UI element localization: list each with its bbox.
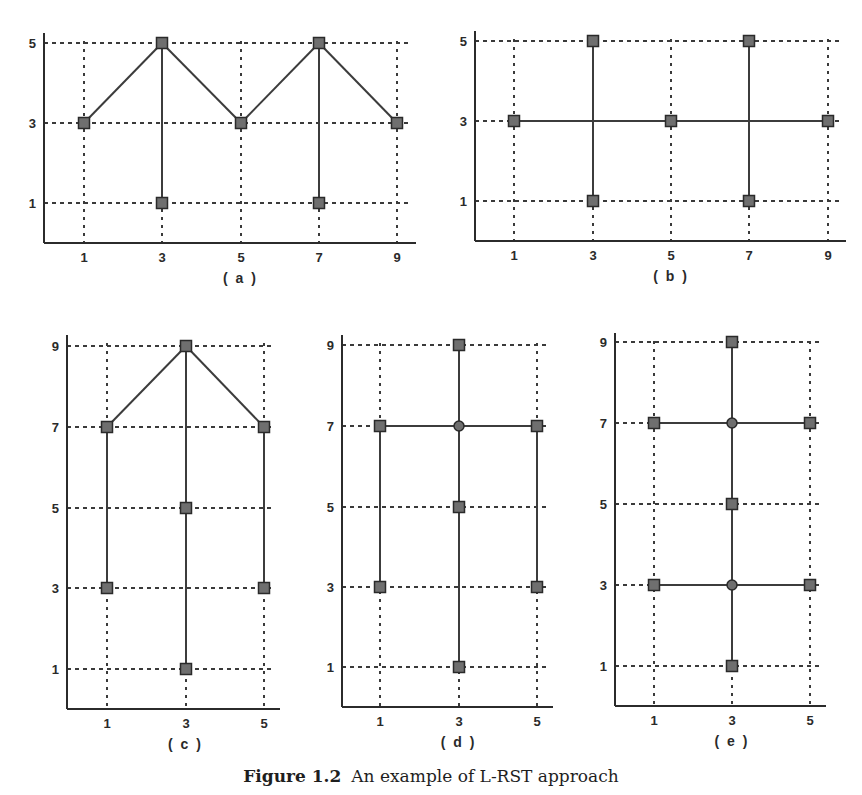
square-node-marker [532, 582, 543, 593]
edge-line [319, 43, 397, 123]
square-node-marker [744, 36, 755, 47]
panel-a: 13513579( a ) [29, 33, 416, 286]
square-node-marker [157, 38, 168, 49]
x-tick-label: 1 [103, 716, 110, 731]
square-node-marker [649, 580, 660, 591]
x-tick-label: 9 [393, 250, 400, 265]
x-tick-label: 3 [455, 714, 462, 729]
edge-line [107, 346, 186, 427]
x-tick-label: 1 [650, 713, 657, 728]
square-node-marker [314, 38, 325, 49]
y-tick-label: 3 [52, 581, 59, 596]
square-node-marker [102, 422, 113, 433]
y-tick-label: 3 [600, 578, 607, 593]
square-node-marker [181, 503, 192, 514]
square-node-marker [509, 116, 520, 127]
square-node-marker [805, 418, 816, 429]
square-node-marker [236, 118, 247, 129]
y-tick-label: 9 [600, 335, 607, 350]
square-node-marker [727, 661, 738, 672]
y-tick-label: 5 [460, 34, 467, 49]
x-tick-label: 5 [806, 713, 813, 728]
square-node-marker [314, 198, 325, 209]
x-tick-label: 1 [376, 714, 383, 729]
square-node-marker [157, 198, 168, 209]
x-tick-label: 5 [237, 250, 244, 265]
panel-label: ( b ) [653, 268, 689, 284]
edge-line [186, 346, 264, 427]
square-node-marker [727, 499, 738, 510]
square-node-marker [375, 582, 386, 593]
circle-node-marker [727, 418, 737, 428]
panel-e: 13579135( e ) [600, 333, 826, 749]
edge-line [241, 43, 319, 123]
circle-node-marker [454, 421, 464, 431]
edge-line [84, 43, 162, 123]
y-tick-label: 7 [327, 419, 334, 434]
y-tick-label: 3 [327, 580, 334, 595]
x-tick-label: 5 [533, 714, 540, 729]
square-node-marker [805, 580, 816, 591]
y-tick-label: 3 [29, 116, 36, 131]
square-node-marker [259, 422, 270, 433]
square-node-marker [649, 418, 660, 429]
figure-canvas: 13513579( a ) 13513579( b ) 13579135( c … [0, 0, 862, 795]
panel-b: 13513579( b ) [460, 31, 846, 284]
panel-label: ( c ) [168, 736, 203, 752]
y-tick-label: 7 [600, 416, 607, 431]
square-node-marker [588, 196, 599, 207]
y-tick-label: 1 [460, 194, 467, 209]
square-node-marker [454, 662, 465, 673]
x-tick-label: 1 [510, 248, 517, 263]
square-node-marker [102, 583, 113, 594]
y-tick-label: 3 [460, 114, 467, 129]
square-node-marker [181, 341, 192, 352]
square-node-marker [375, 421, 386, 432]
x-tick-label: 7 [745, 248, 752, 263]
x-tick-label: 1 [80, 250, 87, 265]
square-node-marker [666, 116, 677, 127]
square-node-marker [823, 116, 834, 127]
panel-label: ( d ) [441, 734, 477, 750]
x-tick-label: 3 [182, 716, 189, 731]
circle-node-marker [727, 580, 737, 590]
y-tick-label: 5 [29, 36, 36, 51]
square-node-marker [181, 664, 192, 675]
panel-c: 13579135( c ) [52, 335, 280, 752]
square-node-marker [454, 502, 465, 513]
y-tick-label: 7 [52, 420, 59, 435]
figure-number: Figure 1.2 [243, 766, 341, 786]
figure-caption-text: An example of L-RST approach [351, 766, 618, 786]
x-tick-label: 3 [728, 713, 735, 728]
square-node-marker [744, 196, 755, 207]
x-tick-label: 3 [158, 250, 165, 265]
panel-d: 13579135( d ) [327, 335, 553, 750]
edge-line [162, 43, 241, 123]
square-node-marker [588, 36, 599, 47]
y-tick-label: 1 [29, 196, 36, 211]
y-tick-label: 5 [52, 501, 59, 516]
y-tick-label: 9 [327, 338, 334, 353]
figure-caption: Figure 1.2An example of L-RST approach [0, 766, 862, 786]
square-node-marker [454, 340, 465, 351]
y-tick-label: 5 [600, 497, 607, 512]
x-tick-label: 5 [260, 716, 267, 731]
y-tick-label: 5 [327, 500, 334, 515]
y-tick-label: 1 [327, 660, 334, 675]
square-node-marker [532, 421, 543, 432]
x-tick-label: 9 [824, 248, 831, 263]
square-node-marker [392, 118, 403, 129]
panel-label: ( e ) [715, 733, 750, 749]
x-tick-label: 7 [315, 250, 322, 265]
x-tick-label: 3 [589, 248, 596, 263]
square-node-marker [727, 337, 738, 348]
y-tick-label: 1 [600, 659, 607, 674]
square-node-marker [259, 583, 270, 594]
square-node-marker [79, 118, 90, 129]
y-tick-label: 1 [52, 662, 59, 677]
y-tick-label: 9 [52, 339, 59, 354]
x-tick-label: 5 [667, 248, 674, 263]
panel-label: ( a ) [223, 270, 258, 286]
